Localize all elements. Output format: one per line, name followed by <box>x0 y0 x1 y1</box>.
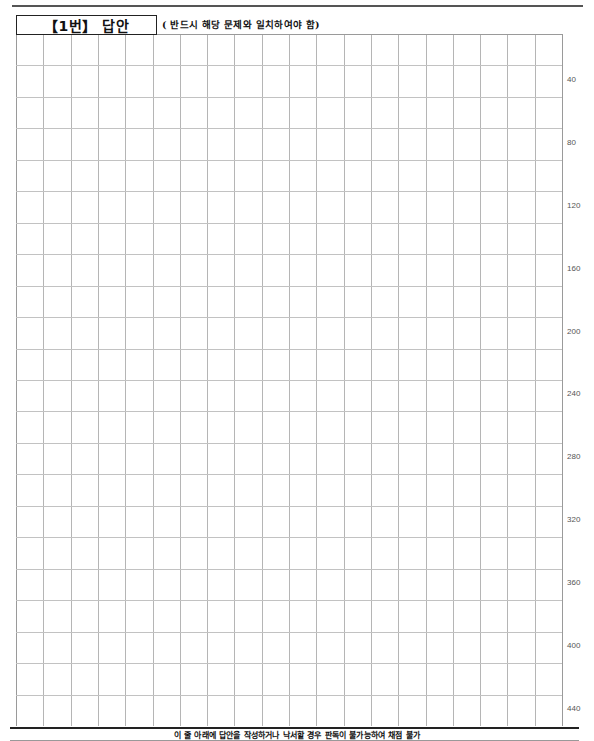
character-count-label: 40 <box>567 75 576 84</box>
character-count-label: 440 <box>567 704 580 713</box>
instruction-text: ( 반드시 해당 문제와 일치하여야 함) <box>162 17 320 31</box>
grid-row-line <box>16 537 562 538</box>
grid-column-line <box>562 34 563 726</box>
character-count-label: 320 <box>567 515 580 524</box>
grid-row-line <box>16 317 562 318</box>
answer-title-box: 【1번】 답안 <box>16 15 157 35</box>
character-count-label: 360 <box>567 578 580 587</box>
answer-grid[interactable] <box>16 34 562 726</box>
grid-row-line <box>16 443 562 444</box>
character-count-label: 240 <box>567 389 580 398</box>
grid-row-line <box>16 65 562 66</box>
grid-row-line <box>16 191 562 192</box>
grid-row-line <box>16 223 562 224</box>
answer-title: 【1번】 답안 <box>44 15 129 35</box>
grid-row-line <box>16 349 562 350</box>
grid-row-line <box>16 286 562 287</box>
character-count-label: 400 <box>567 641 580 650</box>
top-rule <box>12 5 583 7</box>
grid-row-line <box>16 569 562 570</box>
character-count-label: 120 <box>567 201 580 210</box>
character-count-label: 80 <box>567 138 576 147</box>
character-count-label: 200 <box>567 327 580 336</box>
grid-row-line <box>16 600 562 601</box>
grid-row-line <box>16 380 562 381</box>
grid-row-line <box>16 97 562 98</box>
grid-row-line <box>16 695 562 696</box>
grid-row-line <box>16 411 562 412</box>
grid-row-line <box>16 128 562 129</box>
grid-row-line <box>16 506 562 507</box>
grid-row-line <box>16 254 562 255</box>
footer-warning: 이 줄 아래에 답안을 작성하거나 낙서할 경우 판독이 불가능하여 채점 불가 <box>0 729 594 740</box>
grid-row-line <box>16 160 562 161</box>
character-count-label: 280 <box>567 452 580 461</box>
grid-row-line <box>16 474 562 475</box>
character-count-label: 160 <box>567 264 580 273</box>
grid-row-line <box>16 632 562 633</box>
grid-row-line <box>16 663 562 664</box>
